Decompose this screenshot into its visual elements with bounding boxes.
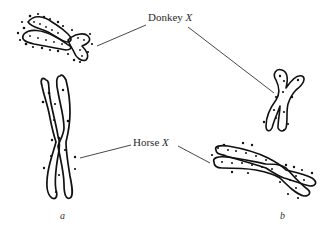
- horse-x-label: Horse X: [133, 137, 169, 148]
- leader-line-donkey-a: [97, 25, 146, 46]
- panel-label-b: b: [280, 211, 285, 221]
- donkey-x-label: Donkey X: [148, 12, 192, 23]
- donkey-label-text: Donkey: [148, 11, 186, 23]
- horse-label-text: Horse: [133, 136, 162, 148]
- donkey-x-beads-a: [17, 13, 93, 63]
- leader-line-donkey-b: [188, 27, 274, 93]
- leader-lines: [80, 25, 274, 163]
- donkey-x-chromosome-b: [266, 70, 304, 131]
- chromosome-diagram: [0, 0, 336, 234]
- leader-line-horse-a: [80, 145, 131, 158]
- donkey-x-chromosome-a: [23, 17, 90, 61]
- leader-line-horse-b: [178, 146, 210, 163]
- donkey-x-beads-b: [263, 75, 299, 131]
- horse-x-chromosome-a: [41, 75, 72, 198]
- donkey-label-var: X: [186, 11, 193, 23]
- horse-x-chromosome-b: [214, 146, 316, 196]
- panel-label-a: a: [60, 211, 65, 221]
- horse-label-var: X: [162, 136, 169, 148]
